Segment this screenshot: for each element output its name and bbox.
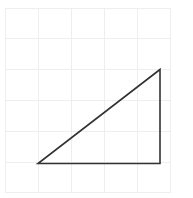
right-triangle-diagram [0, 0, 193, 198]
figure-container [0, 0, 193, 198]
canvas-background [0, 0, 193, 198]
